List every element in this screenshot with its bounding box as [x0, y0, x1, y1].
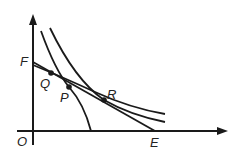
label-f: F	[20, 55, 28, 68]
label-p: P	[60, 91, 69, 104]
label-q: Q	[40, 77, 50, 90]
x-axis-arrow-icon	[217, 127, 228, 135]
label-r: R	[107, 88, 116, 101]
point-p	[66, 84, 72, 90]
label-e: E	[150, 136, 159, 149]
label-o: O	[17, 135, 27, 148]
point-q	[48, 70, 54, 76]
point-r	[101, 97, 107, 103]
y-axis-arrow-icon	[29, 14, 37, 25]
upper-curve	[50, 28, 165, 122]
diagram-canvas	[0, 0, 236, 159]
